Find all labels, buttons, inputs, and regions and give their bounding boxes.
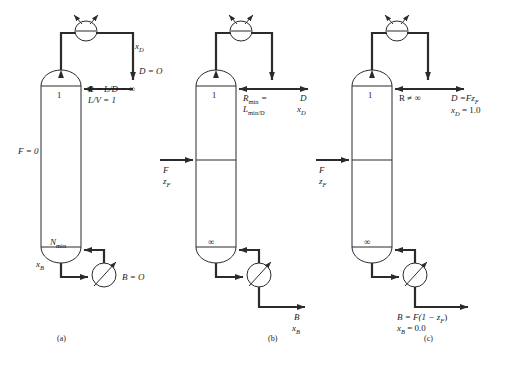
panel-a-distillate-comp: xD xyxy=(134,41,144,53)
panel-a-feed-label: F = 0 xyxy=(17,146,39,156)
panel-b: Rmin = Lmin/D D xD F zF 1 ∞ B xB (b) xyxy=(160,15,308,343)
panel-c-reflux-ratio: R ≠ ∞ xyxy=(399,93,421,103)
panel-a-distillate-line xyxy=(96,33,133,80)
panel-b-bottoms-comp: xB xyxy=(291,323,300,335)
panel-c-bottom-stage-number: ∞ xyxy=(364,237,370,247)
panel-a-lv-ratio: L/V = 1 xyxy=(87,95,116,105)
reboiler-icon xyxy=(92,262,116,287)
figure-canvas: xD D = O R = L/D = ∞ L/V = 1 F = 0 1 Nmi… xyxy=(0,0,512,370)
panel-b-caption: (b) xyxy=(268,334,278,343)
panel-a-bottoms-flow: B = O xyxy=(122,272,145,282)
panel-c-vapor-line xyxy=(372,33,387,70)
panel-c-feed-comp: zF xyxy=(318,176,328,188)
panel-c-bottoms-flow: B = F(1 − zF) xyxy=(397,312,447,324)
panel-b-distillate-comp: xD xyxy=(296,104,306,116)
panel-b-distillate-line xyxy=(251,33,272,80)
panel-c-distillate-flow: D =FzF xyxy=(450,93,480,105)
panel-a-bottoms-line xyxy=(61,263,88,277)
panel-c-vapor-return-line xyxy=(395,250,415,263)
panel-a-vapor-return-line xyxy=(84,250,104,263)
panel-a-top-stage-number: 1 xyxy=(57,90,61,100)
reboiler-icon xyxy=(403,262,427,287)
panel-c-distillate-comp: xD = 1.0 xyxy=(450,105,481,117)
panel-c-bottoms-out-line xyxy=(415,287,468,307)
panel-c-top-stage-number: 1 xyxy=(368,90,372,100)
condenser-icon xyxy=(385,15,409,41)
panel-a-distillate-flow: D = O xyxy=(138,66,163,76)
panel-b-top-stage-number: 1 xyxy=(212,90,216,100)
panel-c-bottoms-line xyxy=(372,263,399,277)
panel-b-bottoms-flow: B xyxy=(294,312,300,322)
panel-c-bottoms-comp: xB = 0.0 xyxy=(396,323,426,335)
panel-a-vapor-line xyxy=(61,33,76,70)
panel-a: xD D = O R = L/D = ∞ L/V = 1 F = 0 1 Nmi… xyxy=(17,15,163,343)
panel-b-min-reflux-line1: Rmin = xyxy=(242,93,267,105)
panel-b-feed-flow: F xyxy=(162,165,169,175)
panel-b-bottom-stage-number: ∞ xyxy=(208,237,214,247)
panel-b-feed-comp: zF xyxy=(162,176,172,188)
condenser-icon xyxy=(74,15,98,41)
panel-a-caption: (a) xyxy=(57,334,66,343)
condenser-icon xyxy=(229,15,253,41)
panel-a-reflux-ratio: R = L/D = ∞ xyxy=(87,84,135,94)
panel-b-bottoms-line xyxy=(216,263,243,277)
panel-b-bottoms-out-line xyxy=(259,287,305,307)
panel-c-distillate-line xyxy=(407,33,428,80)
panel-b-min-reflux-line2: Lmin/D xyxy=(242,104,265,116)
panel-a-bottoms-comp: xB xyxy=(35,259,44,271)
panel-c-feed-flow: F xyxy=(318,165,325,175)
panel-b-vapor-line xyxy=(216,33,231,70)
distillation-limiting-cases-figure: xD D = O R = L/D = ∞ L/V = 1 F = 0 1 Nmi… xyxy=(0,0,512,370)
panel-b-vapor-return-line xyxy=(239,250,259,263)
panel-b-distillate-flow: D xyxy=(299,93,307,103)
reboiler-icon xyxy=(247,262,271,287)
panel-c-caption: (c) xyxy=(424,334,433,343)
panel-c: R ≠ ∞ D =FzF xD = 1.0 F zF 1 ∞ B = F(1 −… xyxy=(316,15,481,343)
